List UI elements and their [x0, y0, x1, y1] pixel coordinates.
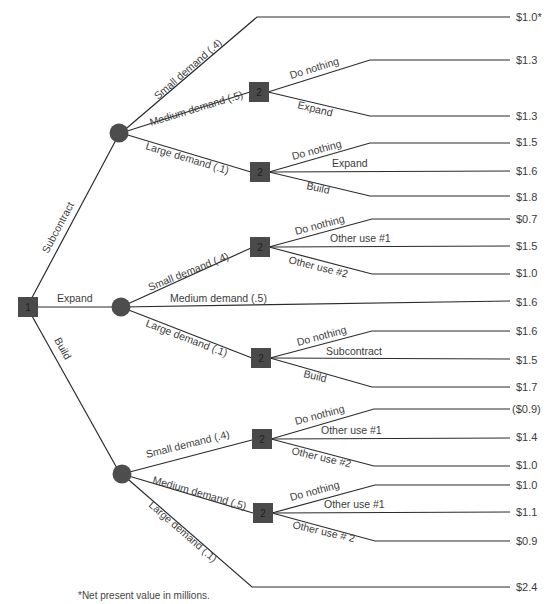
chance-node-subcontract: [110, 124, 129, 143]
branch-option: [269, 171, 510, 172]
payoff-value: $1.0: [516, 459, 537, 471]
payoff-value: $1.8: [516, 191, 537, 203]
decision-node-2: 2: [253, 503, 273, 523]
label-option-other1: Other use #1: [321, 424, 382, 436]
decision-node-2: 2: [251, 348, 271, 368]
payoff-value: $1.7: [516, 381, 537, 393]
svg-text:1: 1: [25, 302, 31, 313]
payoff-value: $1.3: [516, 54, 537, 66]
payoff-value: $1.6: [516, 296, 537, 308]
branch-build: [27, 307, 118, 470]
label-option-subcontract: Subcontract: [326, 345, 382, 357]
branch-option: [272, 512, 510, 513]
branch-option: [271, 438, 510, 439]
label-option-other2: Other use # 2: [292, 518, 357, 544]
branch-option: [269, 172, 510, 196]
label-option-build: Build: [306, 179, 331, 196]
decision-tree: 1 2 2 2 2 2 2 Subcontract Expand Build S…: [0, 0, 556, 604]
payoff-value: $1.1: [516, 506, 537, 518]
svg-text:2: 2: [257, 167, 263, 178]
svg-text:2: 2: [258, 353, 264, 364]
label-option-other1: Other use #1: [324, 498, 385, 510]
label-option-other2: Other use #2: [291, 444, 353, 469]
footnote: *Net present value in millions.: [78, 590, 210, 601]
label-exp-small: Small demand (.4): [146, 250, 230, 293]
payoff-value: $1.5: [516, 136, 537, 148]
label-sub-small: Small demand (.4): [151, 36, 224, 101]
label-option-build: Build: [303, 367, 329, 384]
payoff-value: $1.4: [516, 431, 537, 443]
payoff-value: $1.0: [516, 479, 537, 491]
label-exp-medium: Medium demand (.5): [170, 292, 267, 304]
payoff-value: $0.9: [516, 535, 537, 547]
payoff-value: $1.6: [516, 165, 537, 177]
svg-text:2: 2: [260, 508, 266, 519]
payoff-value: $1.5: [516, 240, 537, 252]
label-build-small: Small demand (.4): [145, 428, 231, 460]
label-option-expand: Expand: [332, 157, 368, 169]
decision-node-1: 1: [18, 297, 38, 317]
payoff-value: $1.3: [516, 110, 537, 122]
payoff-value: $1.6: [516, 325, 537, 337]
payoff-value: $1.5: [516, 354, 537, 366]
label-build-medium: Medium demand (.5): [151, 473, 247, 511]
label-exp-large: Large demand (.1): [144, 317, 229, 359]
decision-node-2: 2: [250, 162, 270, 182]
payoff-value: ($0.9): [512, 403, 541, 415]
label-option-other1: Other use #1: [330, 232, 391, 244]
svg-text:2: 2: [257, 242, 263, 253]
branch-subcontract: [27, 138, 117, 307]
label-option-other2: Other use #2: [288, 253, 350, 279]
decision-node-2: 2: [250, 237, 270, 257]
label-subcontract: Subcontract: [39, 200, 76, 255]
svg-text:2: 2: [256, 87, 262, 98]
payoff-value: $0.7: [516, 213, 537, 225]
label-option-expand: Expand: [297, 98, 335, 118]
chance-node-build: [113, 465, 132, 484]
payoff-value: $1.0*: [516, 11, 542, 23]
branch-option: [269, 246, 510, 247]
label-expand: Expand: [57, 292, 93, 304]
payoff-value: $2.4: [516, 581, 537, 593]
chance-node-expand: [112, 298, 131, 317]
label-sub-large: Large demand (.1): [144, 139, 230, 176]
branch-option: [270, 358, 510, 359]
payoff-value: $1.0: [516, 267, 537, 279]
svg-text:2: 2: [259, 434, 265, 445]
label-build-large: Large demand (.1): [147, 498, 220, 564]
decision-node-2: 2: [252, 429, 272, 449]
decision-node-2: 2: [249, 82, 269, 102]
